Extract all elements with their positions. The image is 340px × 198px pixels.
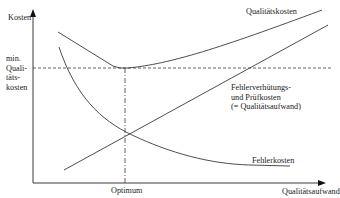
quality-cost-label: Qualitätskosten xyxy=(246,7,297,17)
y-axis-label: Kosten xyxy=(8,13,31,23)
quality-cost-curve xyxy=(58,10,322,68)
x-axis-label: Qualitätsaufwand xyxy=(282,187,340,197)
prevention-cost-label: Fehlerverhütungs- und Prüfkosten (= Qual… xyxy=(231,83,301,112)
failure-cost-label: Fehlerkosten xyxy=(252,156,294,166)
optimum-label: Optimum xyxy=(111,186,142,196)
x-axis-arrow-icon xyxy=(318,180,326,186)
min-quality-cost-label: min. Quali- täts- kosten xyxy=(6,54,27,92)
